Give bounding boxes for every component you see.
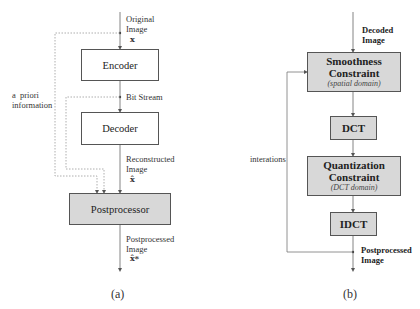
reconstructed-image-symbol: x̂ [130,175,135,185]
postprocessor-label: Postprocessor [91,204,149,215]
postprocessor-box: Postprocessor [69,193,171,225]
postprocessed-image-label-b-line2: Image [361,256,412,266]
smoothness-constraint-box: Smoothness Constraint (spatial domain) [307,52,401,92]
idct-box: IDCT [330,212,377,236]
caption-b: (b) [343,287,357,302]
dct-box: DCT [330,116,377,140]
quantization-constraint-box: Quantization Constraint (DCT domain) [307,156,401,196]
caption-a: (a) [111,287,124,302]
encoder-box: Encoder [81,49,159,81]
bit-stream-label: Bit Stream [126,93,163,103]
a-priori-information-label: a priori information [12,91,52,110]
original-image-label-line2: Image [126,25,154,35]
decoder-box: Decoder [81,112,159,145]
reconstructed-image-label: Reconstructed Image [126,155,175,174]
decoded-image-label-line2: Image [362,36,393,46]
decoded-image-label: Decoded Image [362,26,393,45]
smoothness-title-line2: Constraint [329,67,380,79]
reconstructed-image-label-line2: Image [126,165,175,175]
quantization-subtitle: (DCT domain) [331,183,378,193]
decoder-label: Decoder [102,123,138,134]
a-priori-label-line2: information [12,101,52,111]
idct-label: IDCT [340,218,368,230]
diagram-canvas [0,0,420,309]
quantization-title-line2: Constraint [329,171,380,183]
postprocessed-image-symbol: x̂* [130,254,139,264]
smoothness-subtitle: (spatial domain) [327,79,380,89]
iterations-label: interations [250,155,286,165]
original-image-symbol: x [130,35,135,45]
postprocessed-image-label-a: Postprocessed Image [126,235,174,254]
smoothness-title-line1: Smoothness [326,55,382,67]
quantization-title-line1: Quantization [323,159,385,171]
postprocessed-image-label-b: Postprocessed Image [361,246,412,265]
encoder-label: Encoder [103,60,138,71]
original-image-label: Original Image [126,15,154,34]
dct-label: DCT [342,122,365,134]
